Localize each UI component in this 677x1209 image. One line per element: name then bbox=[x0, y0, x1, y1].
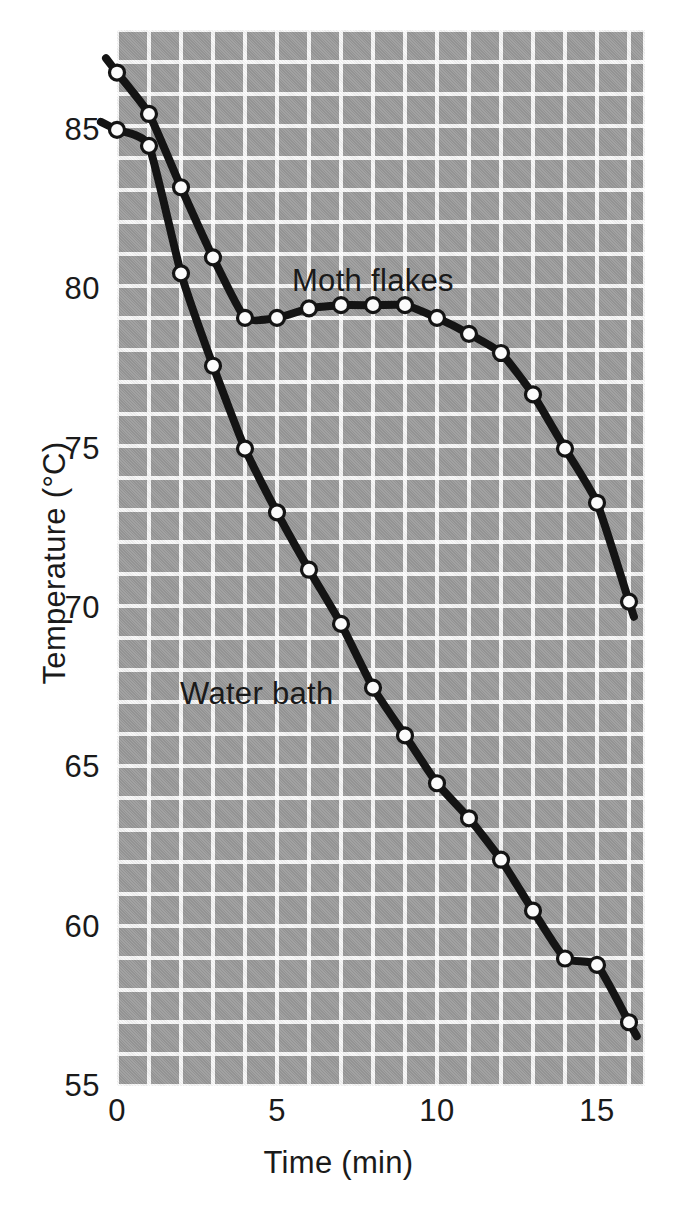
plot-area bbox=[117, 30, 645, 1086]
grid-lines bbox=[117, 30, 645, 1086]
y-tick-label: 55 bbox=[0, 1070, 100, 1101]
y-axis-title: Temperature (°C) bbox=[37, 253, 73, 873]
x-tick-label: 10 bbox=[407, 1095, 467, 1126]
cooling-curve-chart: 85 80 75 70 65 60 55 0 5 10 15 Time (min… bbox=[0, 0, 677, 1209]
y-tick-label: 60 bbox=[0, 911, 100, 942]
series-label-water-bath: Water bath bbox=[180, 676, 333, 712]
x-tick-label: 0 bbox=[87, 1095, 147, 1126]
x-tick-label: 5 bbox=[247, 1095, 307, 1126]
x-tick-label: 15 bbox=[567, 1095, 627, 1126]
x-axis-title: Time (min) bbox=[0, 1145, 677, 1181]
series-label-moth-flakes: Moth flakes bbox=[292, 263, 454, 299]
y-tick-label: 85 bbox=[0, 114, 100, 145]
